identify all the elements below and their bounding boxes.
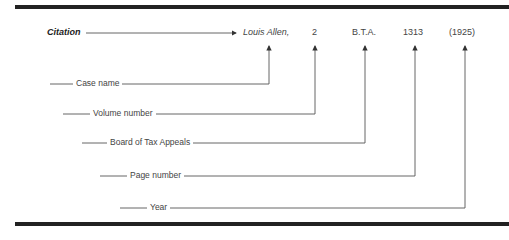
label-year: Year xyxy=(147,203,170,212)
label-page-number: Page number xyxy=(127,171,184,180)
citation-page: 1313 xyxy=(403,28,423,37)
citation-heading: Citation xyxy=(47,28,81,37)
citation-reporter: B.T.A. xyxy=(352,28,376,37)
citation-volume: 2 xyxy=(312,28,317,37)
citation-year: (1925) xyxy=(449,28,475,37)
label-case-name: Case name xyxy=(73,79,122,88)
label-volume-number: Volume number xyxy=(90,109,156,118)
citation-case-name: Louis Allen, xyxy=(243,28,289,37)
label-board-of-tax-appeals: Board of Tax Appeals xyxy=(107,138,193,147)
